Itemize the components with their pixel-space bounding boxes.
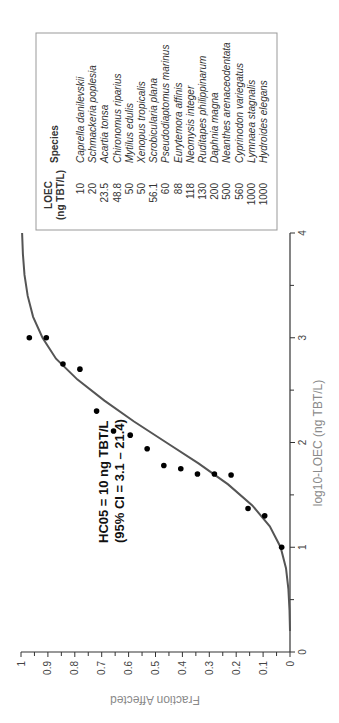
table-cell-loec: 500 [221, 183, 232, 200]
table-cell-loec: 200 [209, 183, 220, 200]
data-point [27, 335, 33, 341]
rotated-figure: 0123400.10.20.30.40.50.60.70.80.91 HC05 … [0, 0, 339, 723]
table-cell-loec: 1000 [258, 183, 269, 206]
table-header-loec: LOEC [43, 181, 54, 209]
table-header-loec-units: (ng TBT/L) [55, 170, 66, 220]
axes: 0123400.10.20.30.40.50.60.70.80.91 [16, 230, 309, 675]
ssd-chart: 0123400.10.20.30.40.50.60.70.80.91 HC05 … [0, 0, 339, 723]
table-cell-loec: 118 [185, 183, 196, 199]
data-point [212, 471, 218, 477]
data-point [228, 472, 234, 478]
y-tick-label: 1 [16, 661, 27, 667]
table-cell-species: Neomysis integer [185, 85, 196, 163]
table-cell-species: Mytilus edulis [124, 103, 135, 163]
table-cell-loec: 130 [197, 183, 208, 200]
table-cell-loec: 56.1 [148, 183, 159, 203]
table-cell-species: Scrobicularia plana [148, 78, 159, 163]
table-cell-loec: 60 [160, 183, 171, 195]
table-cell-loec: 48.8 [112, 183, 123, 203]
data-point [127, 432, 133, 438]
table-row: 56.1Scrobicularia plana [148, 78, 159, 203]
table-cell-loec: 20 [87, 183, 98, 195]
annotation-hc05: HC05 = 10 ng TBT/L [96, 421, 111, 543]
table-row: 23.5Acartia tonsa [99, 104, 110, 202]
data-point [178, 466, 184, 472]
y-tick-label: 0.5 [150, 661, 161, 675]
y-tick-label: 0.8 [69, 661, 80, 675]
data-point [77, 366, 83, 372]
table-cell-species: Neanthes arenaceodentata [221, 42, 232, 163]
data-point [43, 335, 49, 341]
table-cell-loec: 1000 [246, 183, 257, 206]
table-row: 48.8Chironomus riparius [112, 74, 123, 203]
y-tick-label: 0 [285, 661, 296, 667]
table-cell-loec: 23.5 [99, 183, 110, 203]
data-point [245, 506, 251, 512]
table-cell-species: Caprella danilevskii [75, 76, 86, 163]
table-row: 1000Hydroides elegans [258, 80, 269, 205]
data-point [94, 408, 100, 414]
data-point [60, 361, 66, 367]
table-cell-species: Cyprinodon variegatus [234, 63, 245, 163]
table-cell-loec: 50 [124, 183, 135, 195]
y-tick-label: 0.3 [204, 661, 215, 675]
table-cell-loec: 50 [136, 183, 147, 195]
y-tick-label: 0.1 [258, 661, 269, 675]
data-point [279, 544, 285, 550]
table-cell-species: Pseudodiaptomus marinus [160, 45, 171, 163]
y-tick-label: 0.6 [123, 661, 134, 675]
y-tick-label: 0.4 [177, 661, 188, 675]
species-table: LOEC (ng TBT/L) Species 10Caprella danil… [36, 33, 277, 230]
x-tick-label: 2 [297, 439, 308, 445]
table-cell-species: Lymnaea stagnalis [246, 80, 257, 163]
data-point [195, 471, 201, 477]
table-cell-species: Eurytemora affinis [173, 82, 184, 163]
table-header-species: Species [49, 125, 60, 163]
table-row: 200Daphnia magna [209, 92, 220, 200]
table-cell-loec: 560 [234, 183, 245, 200]
y-tick-label: 0.9 [42, 661, 53, 675]
y-tick-label: 0.7 [96, 661, 107, 675]
data-point [144, 446, 150, 452]
table-cell-species: Ruditapes philippinarum [197, 56, 208, 163]
table-cell-species: Chironomus riparius [112, 74, 123, 163]
table-cell-loec: 88 [173, 183, 184, 195]
x-tick-label: 1 [297, 544, 308, 550]
y-tick-label: 0.2 [231, 661, 242, 675]
fitted-curve [22, 233, 290, 631]
x-tick-label: 4 [297, 230, 308, 236]
annotation-ci: (95% CI = 3.1 – 21.4) [112, 419, 127, 543]
table-cell-species: Hydroides elegans [258, 80, 269, 163]
table-cell-species: Xenopus tropicalis [136, 81, 147, 164]
x-axis-title: log10-LOEC (ng TBT/L) [311, 380, 325, 507]
table-row: 1000Lymnaea stagnalis [246, 80, 257, 205]
table-cell-loec: 10 [75, 183, 86, 195]
table-cell-species: Schmackeria poplesia [87, 65, 98, 163]
x-tick-label: 0 [297, 649, 308, 655]
y-axis-title: Fraction Affected [110, 693, 200, 707]
table-cell-species: Daphnia magna [209, 92, 220, 163]
data-point [161, 463, 167, 469]
data-point [262, 513, 268, 519]
table-cell-species: Acartia tonsa [99, 104, 110, 164]
x-tick-label: 3 [297, 335, 308, 341]
